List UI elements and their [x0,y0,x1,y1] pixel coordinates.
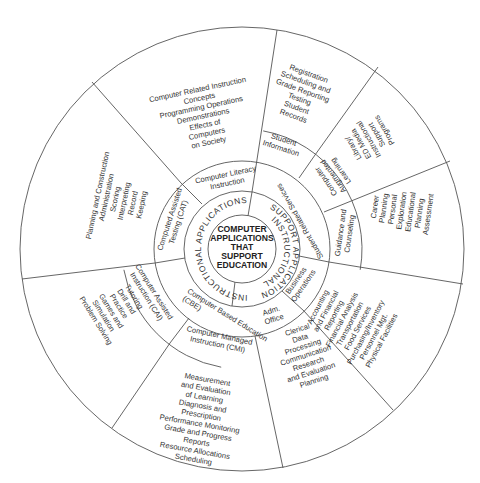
student-info-detail-label: Registration Scheduling and Grade Report… [266,60,337,130]
cat-detail-label: Planning and Construction Administration… [84,151,155,249]
ring3-divider-cat-cbe [155,258,185,263]
cmi-detail-label: Measurement and Evaluation of Learning D… [153,368,248,471]
adm-office-label: Adm. Office [260,303,284,326]
center-label: COMPUTER APPLICATIONS THAT SUPPORT EDUCA… [210,224,274,270]
guidance-detail-label: Career Planning Personal Exploration Edu… [367,185,435,236]
ring2-divider-top [248,192,252,216]
computed-assisted-testing-label: Computed Assisted Testing (CAT) [155,187,192,255]
guidance-counseling-label: Guidance and Counseling [333,209,357,258]
computer-augmented-learning-label: Computer Augmented Learning [311,153,355,200]
ring4-divider-info-augmented [299,155,315,178]
computer-literacy-instruction-label: Computer Literacy Instruction [194,164,259,195]
student-information-label: Student Information [262,129,304,158]
spoke-bottom [255,336,283,468]
education-applications-wheel-diagram: COMPUTER APPLICATIONS THAT SUPPORT EDUCA… [0,0,480,483]
computer-literacy-detail-label: Computer Related Instruction Concepts Pr… [148,75,258,157]
spoke-right [329,262,463,284]
spoke-top [252,30,277,192]
augmented-detail-label: Library/ ED Media Instructional Support … [339,110,399,168]
center-line-5: EDUCATION [217,260,267,270]
